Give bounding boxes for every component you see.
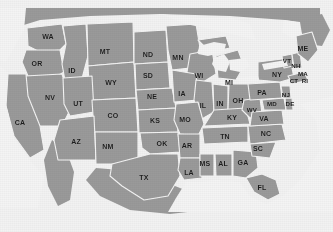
state-label-ME: ME bbox=[298, 45, 309, 52]
state-label-MS: MS bbox=[200, 160, 211, 167]
state-label-WY: WY bbox=[105, 79, 117, 86]
state-label-TX: TX bbox=[139, 174, 148, 181]
state-label-SC: SC bbox=[253, 145, 263, 152]
state-label-NE: NE bbox=[147, 93, 157, 100]
state-label-FL: FL bbox=[258, 184, 267, 191]
state-label-TN: TN bbox=[220, 133, 230, 140]
state-label-VA: VA bbox=[259, 115, 269, 122]
state-label-WV: WV bbox=[247, 107, 257, 113]
state-label-NM: NM bbox=[102, 143, 113, 150]
state-label-DE: DE bbox=[286, 101, 295, 107]
state-label-CO: CO bbox=[108, 112, 119, 119]
state-label-NY: NY bbox=[272, 71, 282, 78]
state-label-RI: RI bbox=[302, 78, 309, 84]
map-screenshot: WAORIDMTNDMNWYSDWIMINVUTNEIAILINOHNYMEVT… bbox=[0, 0, 333, 232]
state-label-NV: NV bbox=[45, 94, 55, 101]
state-label-IA: IA bbox=[178, 90, 185, 97]
state-label-IL: IL bbox=[200, 102, 207, 109]
state-label-CA: CA bbox=[15, 119, 26, 126]
state-label-OR: OR bbox=[32, 60, 43, 67]
state-label-WA: WA bbox=[42, 33, 54, 40]
state-label-AL: AL bbox=[218, 160, 228, 167]
state-label-MO: MO bbox=[179, 116, 191, 123]
state-label-ND: ND bbox=[143, 51, 154, 58]
state-label-NH: NH bbox=[291, 63, 300, 69]
state-label-OH: OH bbox=[233, 97, 244, 104]
state-label-OK: OK bbox=[157, 140, 168, 147]
state-label-PA: PA bbox=[257, 89, 267, 96]
state-label-KS: KS bbox=[150, 117, 160, 124]
state-ND bbox=[134, 30, 168, 64]
state-UT bbox=[63, 76, 94, 116]
state-label-MD: MD bbox=[267, 101, 277, 107]
state-label-AZ: AZ bbox=[71, 138, 81, 145]
state-label-NJ: NJ bbox=[282, 92, 290, 98]
state-label-NC: NC bbox=[261, 130, 272, 137]
state-label-KY: KY bbox=[227, 114, 237, 121]
state-label-IN: IN bbox=[216, 100, 223, 107]
state-label-LA: LA bbox=[184, 169, 194, 176]
state-label-GA: GA bbox=[238, 159, 249, 166]
state-label-MI: MI bbox=[225, 79, 233, 86]
state-label-CT: CT bbox=[290, 78, 299, 84]
state-label-AR: AR bbox=[182, 142, 193, 149]
state-label-ID: ID bbox=[68, 67, 75, 74]
state-label-VT: VT bbox=[283, 58, 291, 64]
state-MT bbox=[87, 22, 134, 66]
state-label-UT: UT bbox=[73, 100, 83, 107]
state-label-MT: MT bbox=[100, 48, 111, 55]
state-label-MN: MN bbox=[172, 54, 183, 61]
state-label-SD: SD bbox=[143, 72, 153, 79]
state-label-WI: WI bbox=[195, 72, 204, 79]
